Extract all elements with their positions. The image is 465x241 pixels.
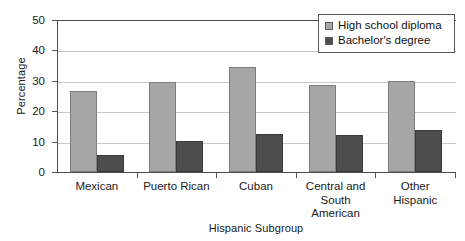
x-axis-tick-mark [296,173,297,178]
bar-chart-figure: Percentage 01020304050 Hispanic Subgroup… [0,0,465,241]
y-axis-tick-label: 50 [25,14,50,26]
bar-group [229,20,283,172]
x-axis-category-label: Central and South American [296,180,376,221]
y-axis-tick-mark [52,142,57,143]
bar [388,81,415,172]
legend-label: High school diploma [338,20,442,32]
chart-legend: High school diplomaBachelor's degree [318,14,455,53]
y-axis-tick-labels: 01020304050 [25,0,50,241]
x-axis-category-label: Cuban [216,180,296,194]
legend-entry[interactable]: Bachelor's degree [325,33,449,48]
bar [336,135,363,172]
legend-entry[interactable]: High school diploma [325,18,449,33]
bar-group [149,20,203,172]
y-axis-tick-mark [52,20,57,21]
x-axis-category-label: Puerto Rican [137,180,217,194]
x-axis-title: Hispanic Subgroup [57,222,455,234]
bar [176,141,203,172]
bar [97,155,124,172]
y-axis-tick-label: 10 [25,136,50,148]
y-axis-tick-mark [52,81,57,82]
x-axis-tick-mark [137,173,138,178]
y-axis-tick-mark [52,172,57,173]
bar [70,91,97,172]
y-axis-tick-label: 0 [25,166,50,178]
x-axis-tick-mark [375,173,376,178]
x-axis-category-label: Other Hispanic [375,180,455,207]
y-axis-tick-label: 20 [25,105,50,117]
y-axis-tick-mark [52,50,57,51]
y-axis-tick-label: 30 [25,75,50,87]
bar [229,67,256,172]
bar-group [70,20,124,172]
x-axis-category-label: Mexican [57,180,137,194]
legend-swatch-icon [325,37,333,45]
legend-label: Bachelor's degree [338,35,430,47]
legend-swatch-icon [325,22,333,30]
y-axis-tick-label: 40 [25,44,50,56]
bar [149,82,176,172]
bar [415,130,442,172]
x-axis-tick-mark [216,173,217,178]
bar [256,134,283,172]
x-axis-line [57,172,456,173]
bar [309,85,336,172]
y-axis-tick-mark [52,111,57,112]
x-axis-tick-mark [455,173,456,178]
